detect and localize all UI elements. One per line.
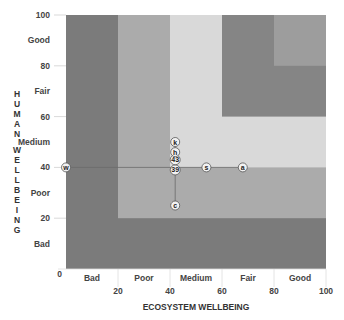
y-axis-title-letter: E xyxy=(14,155,20,165)
y-axis-title-letter: A xyxy=(14,119,20,129)
data-point-c: c xyxy=(171,201,180,210)
y-tick-label: 0 xyxy=(57,269,62,279)
data-point-39: 39 xyxy=(170,165,180,175)
band-good xyxy=(274,15,326,66)
y-band-label: Bad xyxy=(34,239,50,249)
data-point-h: h xyxy=(171,148,180,157)
data-point-w: w xyxy=(62,163,71,172)
y-band-label: Medium xyxy=(18,137,51,147)
y-axis-title-letter: I xyxy=(16,205,18,215)
y-tick-label: 20 xyxy=(41,213,51,223)
x-band-label: Medium xyxy=(180,273,213,283)
y-band-label: Poor xyxy=(31,188,51,198)
y-axis-title-letter: B xyxy=(14,185,20,195)
y-axis-title-letter: N xyxy=(14,215,20,225)
point-label: k xyxy=(173,139,177,146)
x-axis-title: ECOSYSTEM WELLBEING xyxy=(143,302,250,312)
y-axis-title-letter: G xyxy=(14,225,21,235)
y-axis-title-letter: E xyxy=(14,195,20,205)
y-band-label: Fair xyxy=(34,86,50,96)
x-tick-label: 80 xyxy=(269,286,279,296)
y-axis-title-letter: N xyxy=(14,129,20,139)
y-band-label: Good xyxy=(28,35,50,45)
y-tick-label: 100 xyxy=(36,10,50,20)
x-tick-label: 100 xyxy=(319,286,333,296)
data-point-k: k xyxy=(171,138,180,147)
point-label: h xyxy=(173,149,177,156)
x-tick-label: 60 xyxy=(217,286,227,296)
point-label: s xyxy=(204,164,208,171)
point-label: 43 xyxy=(171,156,179,163)
x-band-label: Poor xyxy=(134,273,154,283)
point-label: a xyxy=(241,164,245,171)
point-label: 39 xyxy=(171,166,179,173)
y-axis-title-letter: L xyxy=(14,165,19,175)
x-tick-label: 20 xyxy=(113,286,123,296)
y-axis-title-letter: M xyxy=(13,109,20,119)
point-label: w xyxy=(62,164,69,171)
data-point-a: a xyxy=(238,163,247,172)
x-tick-label: 40 xyxy=(165,286,175,296)
barometer-of-sustainability-chart: 02040608010020406080100BadPoorMediumFair… xyxy=(0,0,344,320)
y-axis-title-letter: U xyxy=(14,99,20,109)
x-band-label: Fair xyxy=(240,273,256,283)
y-axis-title-letter: L xyxy=(14,175,19,185)
x-band-label: Good xyxy=(289,273,311,283)
y-tick-label: 80 xyxy=(41,61,51,71)
point-label: c xyxy=(173,202,177,209)
y-axis-title: HUMANWELLBEING xyxy=(13,89,22,235)
y-tick-label: 60 xyxy=(41,112,51,122)
y-axis-title-letter: W xyxy=(13,145,22,155)
plot-bands xyxy=(66,15,326,269)
data-point-s: s xyxy=(202,163,211,172)
y-axis-title-letter: H xyxy=(14,89,20,99)
y-tick-label: 40 xyxy=(41,162,51,172)
x-band-label: Bad xyxy=(84,273,100,283)
